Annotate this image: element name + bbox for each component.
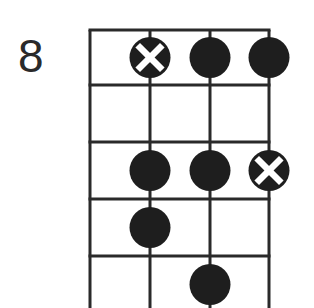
fretboard-grid (89, 30, 271, 308)
note-dot (130, 150, 171, 191)
root-note-dot (249, 150, 290, 191)
note-dot (190, 150, 231, 191)
note-dot (130, 207, 171, 248)
fretboard-diagram (0, 0, 314, 308)
note-dots (130, 37, 290, 305)
note-dot (190, 37, 231, 78)
root-note-dot (130, 37, 171, 78)
note-dot (249, 37, 290, 78)
note-dot (190, 264, 231, 305)
